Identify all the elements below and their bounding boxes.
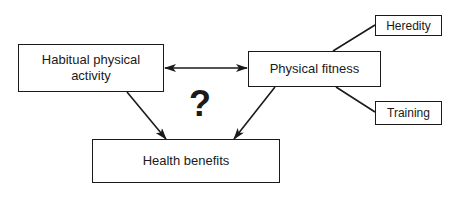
node-heredity: Heredity <box>375 15 442 36</box>
line-training-to-fitness <box>336 87 375 112</box>
arrow-fitness-to-health <box>234 87 275 139</box>
node-label: Heredity <box>386 18 431 34</box>
node-health-benefits: Health benefits <box>92 139 280 183</box>
node-habitual-physical-activity: Habitual physical activity <box>18 44 164 92</box>
node-training: Training <box>375 101 442 125</box>
node-label: Health benefits <box>143 153 230 169</box>
arrow-activity-to-health <box>127 92 166 139</box>
node-label-line2: activity <box>42 68 140 84</box>
line-heredity-to-fitness <box>333 25 375 51</box>
node-label: Training <box>387 105 430 121</box>
node-physical-fitness: Physical fitness <box>248 51 381 87</box>
node-label-line1: Habitual physical <box>42 52 140 68</box>
diagram-canvas: Habitual physical activity Physical fitn… <box>0 0 461 197</box>
node-label: Physical fitness <box>270 61 360 77</box>
question-mark-icon: ? <box>189 86 211 122</box>
